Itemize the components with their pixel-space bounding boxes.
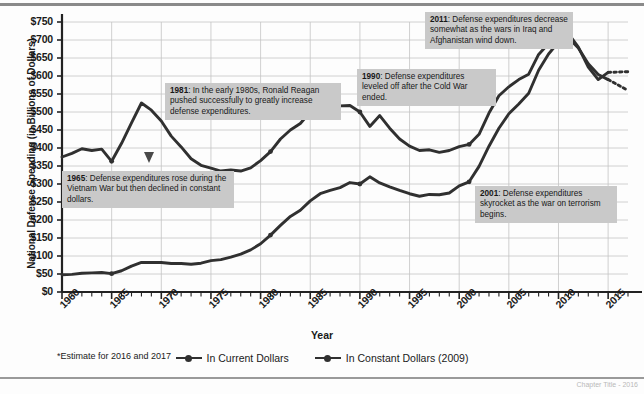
callout-1965: 1965: Defense expenditures rose during t… (62, 171, 234, 208)
y-tick-label: $200 (5, 213, 53, 225)
callout-2011: 2011: Defense expenditures decrease some… (425, 12, 573, 49)
y-tick-label: $700 (5, 33, 53, 45)
legend-item-constant-dollars[interactable]: In Constant Dollars (2009) (315, 352, 469, 364)
x-axis-title: Year (0, 329, 644, 341)
chart-figure: National Defense Spending (in Billions o… (0, 0, 644, 394)
callout-2001: 2001: Defense expenditures skyrocket as … (475, 186, 617, 223)
y-tick-label: $600 (5, 69, 53, 81)
y-tick-label: $550 (5, 87, 53, 99)
y-tick-label: $100 (5, 249, 53, 261)
legend-item-current-dollars[interactable]: In Current Dollars (176, 352, 289, 364)
y-tick-label: $0 (5, 285, 53, 297)
y-tick-label: $500 (5, 105, 53, 117)
y-tick-label: $250 (5, 195, 53, 207)
y-tick-label: $300 (5, 177, 53, 189)
y-tick-label: $650 (5, 51, 53, 63)
legend-label-current-dollars: In Current Dollars (207, 352, 289, 364)
callout-1990-year: 1990 (362, 72, 380, 81)
y-tick-label: $50 (5, 267, 53, 279)
callout-2001-text: : Defense expenditures skyrocket as the … (480, 189, 601, 219)
callout-1965-year: 1965 (67, 174, 85, 183)
callout-1981-year: 1981 (170, 86, 188, 95)
legend-label-constant-dollars: In Constant Dollars (2009) (346, 352, 469, 364)
y-tick-label: $450 (5, 123, 53, 135)
legend-marker-icon (176, 354, 202, 363)
y-tick-label: $150 (5, 231, 53, 243)
callout-1981: 1981: In the early 1980s, Ronald Reagan … (165, 83, 341, 120)
y-tick-label: $750 (5, 15, 53, 27)
callout-1965-text: : Defense expenditures rose during the V… (67, 174, 226, 204)
y-tick-label: $350 (5, 159, 53, 171)
y-tick-label: $400 (5, 141, 53, 153)
callout-1981-text: : In the early 1980s, Ronald Reagan push… (170, 86, 319, 116)
callout-1990: 1990: Defense expenditures leveled off a… (357, 69, 496, 106)
chart-legend: In Current Dollars In Constant Dollars (… (0, 352, 644, 364)
source-caption: Chapter Title - 2016 (577, 381, 638, 388)
legend-marker-icon (315, 354, 341, 363)
callout-2011-year: 2011 (430, 15, 448, 24)
callout-2001-year: 2001 (480, 189, 498, 198)
callout-2011-text: : Defense expenditures decrease somewhat… (430, 15, 568, 45)
